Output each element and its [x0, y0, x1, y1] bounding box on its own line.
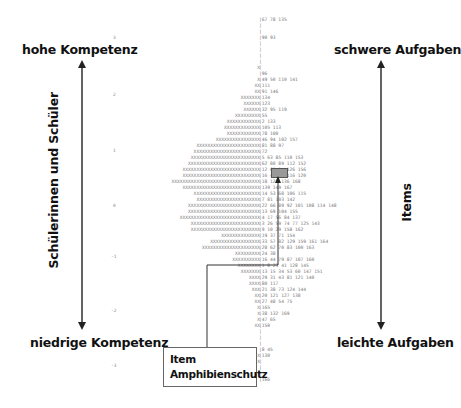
callout-arrow-icon: [200, 170, 290, 350]
callout-box: Item Amphibienschutz: [163, 347, 257, 387]
item-difficulty-row: |67 78 135: [259, 17, 287, 23]
callout-line-2: Amphibienschutz: [170, 367, 267, 382]
callout-line-1: Item: [170, 352, 267, 367]
